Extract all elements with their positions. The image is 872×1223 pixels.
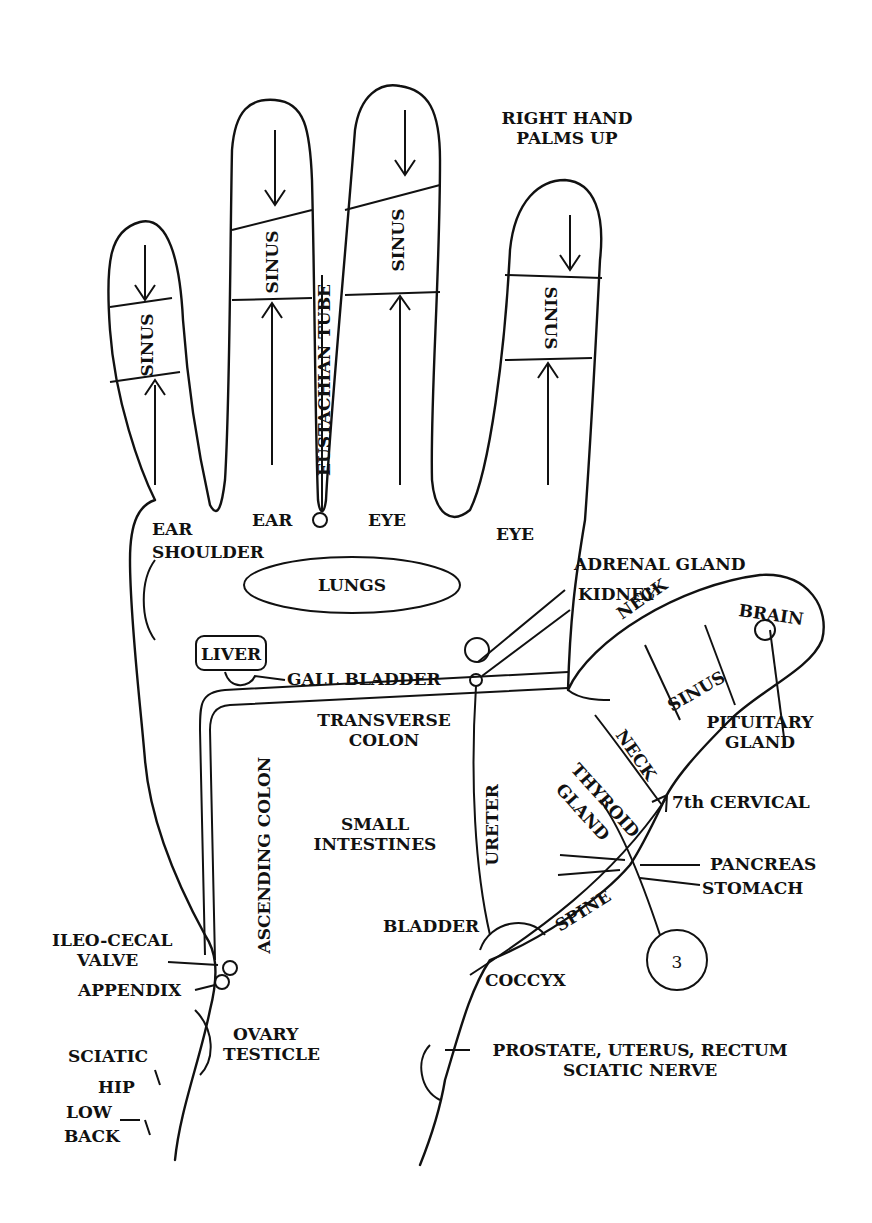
ileo-cecal-label-1: ILEO-CECAL [52, 930, 173, 950]
ascending-colon-label: ASCENDING COLON [254, 757, 274, 955]
ovary-label-1: OVARY [233, 1024, 299, 1044]
title-line1: RIGHT HAND [502, 108, 633, 128]
pinky-sinus-label: SINUS [137, 314, 157, 377]
sciatic-label: SCIATIC [68, 1046, 148, 1066]
pituitary-label-2: GLAND [725, 732, 795, 752]
ureter-label: URETER [482, 783, 502, 866]
adrenal-label: ADRENAL GLAND [573, 554, 746, 574]
brain-label: BRAIN [737, 600, 804, 629]
title-line2: PALMS UP [516, 128, 618, 148]
lungs-label: LUNGS [318, 575, 386, 595]
liver-label: LIVER [201, 644, 262, 664]
low-back-label-1: LOW [66, 1102, 113, 1122]
circled-number: 3 [672, 952, 683, 972]
low-back-label-2: BACK [64, 1126, 121, 1146]
small-intestines-label-2: INTESTINES [314, 834, 437, 854]
shoulder-label: SHOULDER [152, 542, 265, 562]
prostate-label-2: SCIATIC NERVE [563, 1060, 717, 1080]
eye-label-1: EYE [368, 510, 406, 530]
appendix-label: APPENDIX [77, 980, 182, 1000]
pituitary-label-1: PITUITARY [707, 712, 815, 732]
cervical-label: 7th CERVICAL [672, 792, 810, 812]
stomach-label: STOMACH [702, 878, 803, 898]
ring-sinus-label: SINUS [262, 231, 282, 294]
bladder-label: BLADDER [383, 916, 480, 936]
index-sinus-label: SINUS [541, 287, 561, 350]
ear-label-1: EAR [152, 519, 193, 539]
small-intestines-label-1: SMALL [341, 814, 409, 834]
ear-label-2: EAR [252, 510, 293, 530]
transverse-colon-label-2: COLON [349, 730, 420, 750]
thumb-sinus-label: SINUS [664, 667, 728, 716]
gall-bladder-label: GALL BLADDER [287, 669, 441, 689]
coccyx-label: COCCYX [485, 970, 567, 990]
transverse-colon-label-1: TRANSVERSE [317, 710, 450, 730]
eye-label-2: EYE [496, 524, 534, 544]
middle-sinus-label: SINUS [388, 209, 408, 272]
neck-bottom-label: NECK [612, 726, 662, 785]
ovary-label-2: TESTICLE [223, 1044, 320, 1064]
eustachian-label: EUSTACHIAN TUBE [314, 284, 334, 476]
hip-label: HIP [98, 1077, 135, 1097]
ileo-cecal-label-2: VALVE [76, 950, 138, 970]
pancreas-label: PANCREAS [710, 854, 816, 874]
hand-outline [108, 85, 823, 1165]
hand-reflexology-diagram: RIGHT HAND PALMS UP SINUS SINUS EUSTACHI… [0, 0, 872, 1223]
prostate-label-1: PROSTATE, UTERUS, RECTUM [492, 1040, 787, 1060]
